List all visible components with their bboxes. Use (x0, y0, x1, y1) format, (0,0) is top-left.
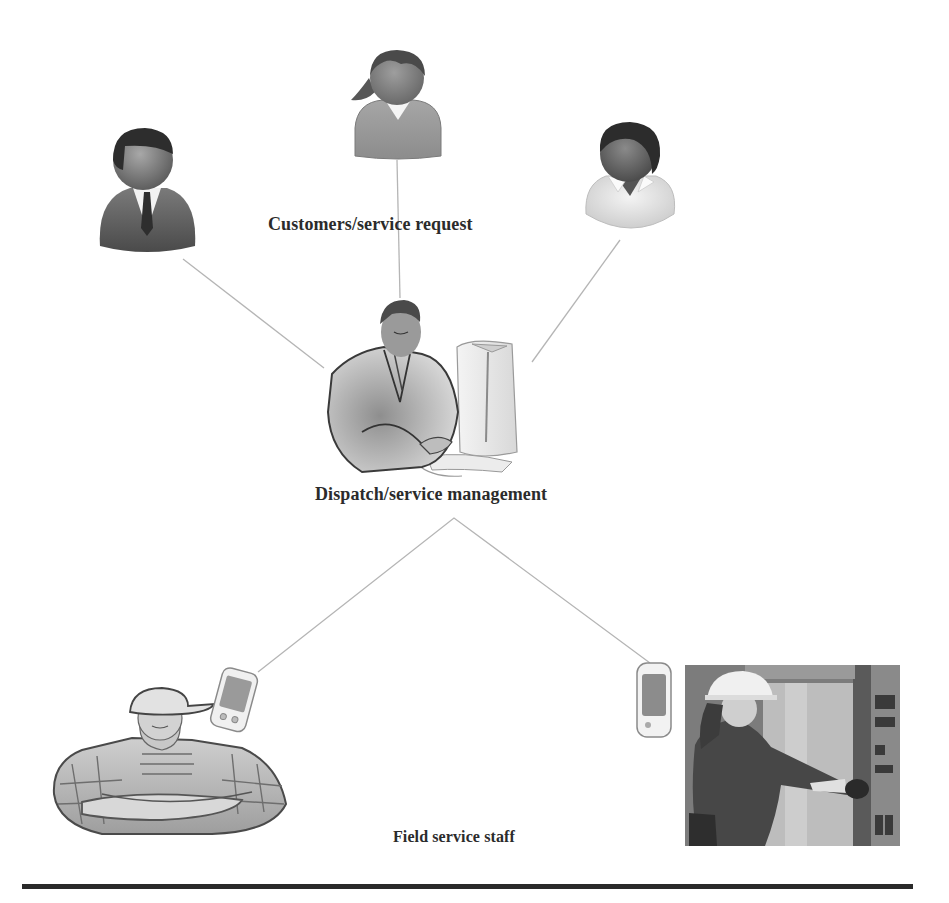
person-icon (582, 118, 682, 243)
bottom-rule-divider (22, 884, 913, 889)
person-icon (345, 48, 450, 163)
pda-icon (206, 664, 264, 736)
computer-operator-icon (322, 292, 527, 482)
technician-icon (685, 665, 900, 846)
customers-label: Customers/service request (268, 214, 473, 235)
edge-collar-to-dispatch (532, 240, 620, 362)
dispatch-label: Dispatch/service management (315, 484, 547, 505)
edge-man-to-dispatch (183, 259, 324, 368)
diagram-canvas: Customers/service request Dispatch/servi… (0, 0, 949, 903)
pda-icon (634, 660, 674, 740)
person-icon (95, 118, 200, 258)
field-staff-label: Field service staff (393, 828, 515, 846)
edge-dispatch-to-field (258, 518, 650, 672)
